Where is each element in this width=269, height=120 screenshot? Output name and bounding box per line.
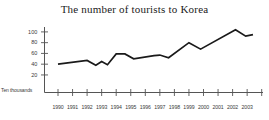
chart-tick-marks: [41, 32, 262, 96]
y-tick-label: 100: [24, 29, 38, 35]
y-tick-label: 80: [24, 39, 38, 45]
y-axis-unit-label: Ten thousands: [1, 87, 32, 93]
y-tick-label: 40: [24, 61, 38, 67]
chart-axes: [45, 27, 264, 93]
y-tick-label: 20: [24, 72, 38, 78]
line-chart-plot: [0, 0, 269, 120]
tourists-series-line: [58, 30, 253, 66]
chart-figure: The number of tourists to Korea 20406080…: [0, 0, 269, 120]
y-tick-label: 60: [24, 50, 38, 56]
x-tick-label: 2003: [239, 104, 255, 110]
